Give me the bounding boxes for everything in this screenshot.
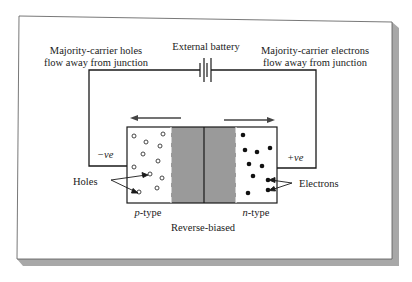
electrons-label: Electrons (299, 178, 339, 190)
n-type-suffix: -type (248, 207, 270, 218)
left-note-line2: flow away from junction (44, 57, 148, 69)
right-note-line1: Majority-carrier electrons (261, 45, 369, 57)
battery-label: External battery (172, 41, 239, 53)
left-note-line1: Majority-carrier holes (44, 45, 148, 57)
left-note: Majority-carrier holes flow away from ju… (44, 45, 148, 69)
caption: Reverse-biased (171, 222, 235, 234)
n-type-region (236, 127, 277, 203)
right-note: Majority-carrier electrons flow away fro… (261, 45, 369, 69)
holes-label: Holes (73, 176, 98, 188)
n-type-label: n-type (243, 207, 270, 219)
diagram-stage: Majority-carrier holes flow away from ju… (0, 0, 412, 282)
p-type-suffix: -type (140, 207, 162, 218)
negative-terminal-label: −ve (97, 149, 113, 161)
right-note-line2: flow away from junction (261, 57, 369, 69)
p-type-label: p-type (135, 207, 162, 219)
positive-terminal-label: +ve (287, 152, 303, 164)
